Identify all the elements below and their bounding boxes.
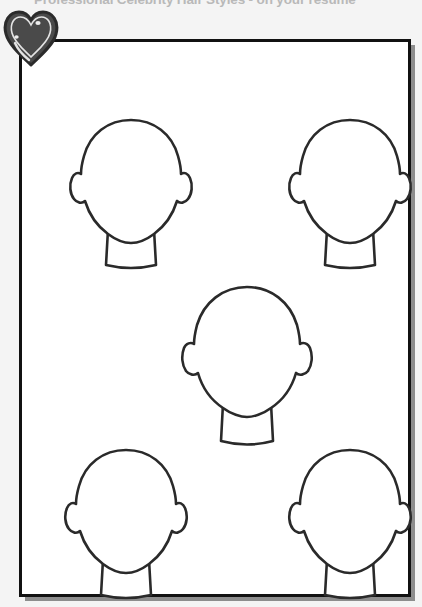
- head-template-center[interactable]: [180, 283, 314, 451]
- head-templates-container: [22, 42, 408, 594]
- worksheet-sheet: [19, 39, 411, 597]
- worksheet-page: Professional Celebrity Hair Styles - on …: [0, 0, 422, 607]
- head-template-bottom-left[interactable]: [63, 446, 189, 604]
- page-title-strip: Professional Celebrity Hair Styles - on …: [0, 0, 422, 11]
- head-template-top-left[interactable]: [68, 116, 194, 274]
- head-template-bottom-right[interactable]: [287, 446, 413, 604]
- page-title: Professional Celebrity Hair Styles - on …: [34, 0, 356, 7]
- head-template-top-right[interactable]: [287, 116, 413, 274]
- heart-icon: [2, 8, 60, 68]
